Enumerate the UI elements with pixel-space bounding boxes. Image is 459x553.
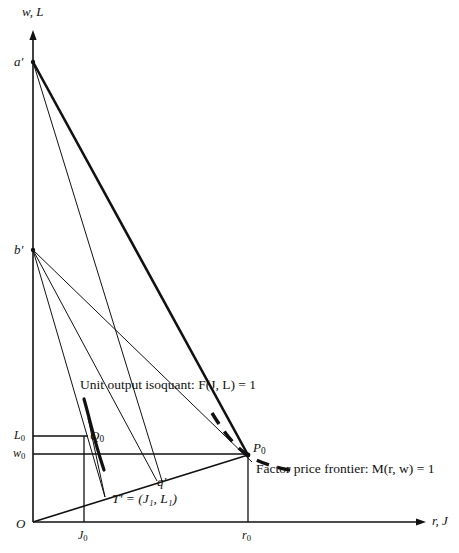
tick-label-L0-sub: 0 — [21, 433, 25, 443]
point-label-q-prime: q′ — [157, 475, 166, 488]
y-axis-arrowhead — [29, 30, 36, 40]
tick-label-r0: r0 — [242, 529, 251, 543]
point-label-P0-main: P — [253, 440, 261, 455]
line-aprime-to-P0 — [33, 62, 248, 455]
tick-label-J0-sub: 0 — [83, 533, 87, 543]
point-label-T-prime: T′ = (J₁, L₁) — [112, 492, 177, 506]
x-axis-label: r, J — [432, 514, 448, 527]
ray-origin-to-P0 — [33, 455, 248, 522]
annotation-unit-output-isoquant: Unit output isoquant: F(J, L) = 1 — [80, 378, 256, 392]
point-label-P0: P0 — [253, 441, 266, 456]
axes-group — [29, 30, 426, 526]
origin-label: O — [16, 517, 25, 530]
marker-P0 — [246, 453, 251, 458]
point-label-a-prime: a′ — [14, 55, 23, 68]
y-axis-label: w, L — [22, 5, 43, 18]
marker-bprime — [31, 248, 35, 252]
economics-figure: w, L r, J O a′ b′ q′ Q0 P0 T′ = (J₁, L₁)… — [0, 0, 459, 553]
tick-label-L0: L0 — [14, 429, 25, 443]
tick-label-w0-sub: 0 — [21, 451, 25, 461]
tick-label-r0-sub: 0 — [247, 533, 251, 543]
x-axis-arrowhead — [416, 518, 426, 525]
point-label-P0-sub: 0 — [261, 446, 266, 456]
point-label-Q0: Q0 — [90, 429, 104, 444]
tick-label-J0: J0 — [78, 529, 88, 543]
tick-label-L0-main: L — [14, 428, 21, 442]
point-label-Q0-main: Q — [90, 428, 99, 443]
line-bprime-to-P0 — [33, 250, 252, 462]
marker-aprime — [31, 60, 35, 64]
annotation-factor-price-frontier: Factor price frontier: M(r, w) = 1 — [256, 462, 434, 476]
point-label-b-prime: b′ — [14, 243, 23, 256]
tick-label-w0: w0 — [13, 447, 25, 461]
line-bprime-to-qprime — [33, 250, 157, 481]
tick-label-w0-main: w — [13, 446, 21, 460]
point-label-Q0-sub: 0 — [99, 434, 104, 444]
line-aprime-to-qprime — [33, 62, 162, 481]
line-bprime-to-Tprime — [33, 250, 105, 497]
